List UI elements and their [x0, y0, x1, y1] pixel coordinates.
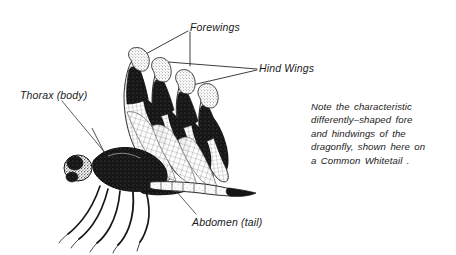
label-hind-wings: Hind Wings	[259, 62, 314, 74]
note-block: Note the characteristic differently–shap…	[311, 100, 447, 167]
note-line: differently–shaped fore	[311, 113, 447, 126]
leader-line-thorax	[62, 101, 106, 154]
leader-line-hindwings-upper	[168, 62, 257, 69]
leg-2	[79, 189, 108, 239]
note-line: dragonfly, shown here on	[311, 140, 447, 153]
label-abdomen: Abdomen (tail)	[192, 216, 262, 228]
leg-3	[97, 191, 120, 243]
abdomen	[140, 182, 256, 197]
antenna	[92, 128, 104, 152]
abdomen-tip	[226, 188, 256, 196]
leader-line-hindwings-lower	[188, 70, 257, 86]
dragonfly-diagram: Forewings Hind Wings Thorax (body) Abdom…	[0, 0, 456, 255]
label-forewings: Forewings	[190, 21, 240, 33]
note-line: Note the characteristic	[311, 100, 447, 113]
label-thorax: Thorax (body)	[20, 89, 87, 101]
head	[64, 155, 92, 182]
compound-eye	[67, 156, 83, 170]
leg-5	[140, 191, 149, 242]
leg-4	[118, 192, 133, 245]
note-line: a Common Whitetail .	[311, 154, 447, 167]
legs	[59, 186, 149, 253]
leader-line-forewings-upper	[142, 31, 188, 56]
note-line: and hindwings of the	[311, 127, 447, 140]
leader-line-abdomen	[176, 191, 196, 214]
leg-1	[68, 186, 100, 234]
